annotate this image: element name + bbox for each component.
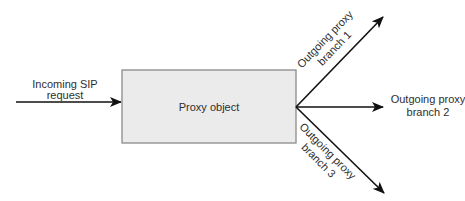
incoming-label-line2: request [47, 89, 84, 101]
branch-2-label-line2: branch 2 [407, 106, 450, 118]
proxy-object-label: Proxy object [179, 101, 240, 113]
branch-2-label-line1: Outgoing proxy [391, 93, 465, 105]
proxy-forking-diagram: Incoming SIP request Proxy object Outgoi… [0, 0, 465, 201]
